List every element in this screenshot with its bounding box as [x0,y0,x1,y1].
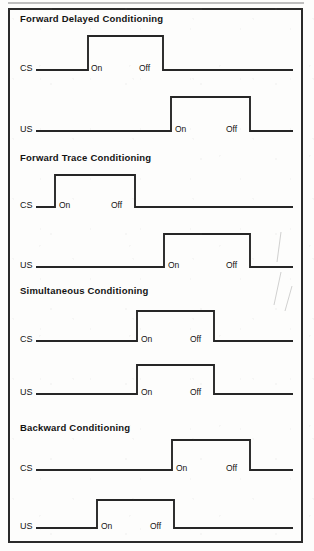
trace-label-us-2: US [20,260,33,270]
on-label-us-2: On [168,260,180,270]
on-label-cs-3: On [141,334,153,344]
scan-artifact-mark-3 [285,286,292,311]
conditioning-timing-diagram: Forward Delayed ConditioningCSOnOffUSOnO… [0,0,314,551]
off-label-us-3: Off [190,387,202,397]
figure-page: Forward Delayed ConditioningCSOnOffUSOnO… [0,0,314,551]
trace-label-us-1: US [20,124,33,134]
waveform-cs-2 [36,175,293,207]
scan-artifact-mark-2 [274,272,281,305]
panel-title-1: Forward Delayed Conditioning [20,13,163,24]
on-label-us-1: On [175,124,187,134]
trace-label-us-3: US [20,387,33,397]
on-label-us-4: On [101,521,113,531]
trace-label-cs-4: CS [20,463,33,473]
off-label-us-2: Off [226,260,238,270]
panel-title-3: Simultaneous Conditioning [20,285,149,296]
off-label-cs-3: Off [190,334,202,344]
trace-label-us-4: US [20,521,33,531]
on-label-cs-1: On [91,63,103,73]
waveform-us-3 [36,365,293,394]
off-label-cs-2: Off [111,200,123,210]
on-label-us-3: On [141,387,153,397]
trace-label-cs-2: CS [20,200,33,210]
panel-title-2: Forward Trace Conditioning [20,152,151,163]
off-label-us-1: Off [226,124,238,134]
waveform-cs-3 [36,311,293,341]
on-label-cs-2: On [59,200,71,210]
scan-artifact-mark-1 [277,232,281,262]
waveform-us-4 [36,500,293,528]
waveform-us-2 [36,234,293,267]
off-label-cs-4: Off [226,463,238,473]
waveform-cs-4 [36,440,293,470]
off-label-us-4: Off [150,521,162,531]
trace-label-cs-1: CS [20,63,33,73]
trace-label-cs-3: CS [20,334,33,344]
off-label-cs-1: Off [139,63,151,73]
on-label-cs-4: On [176,463,188,473]
waveform-us-1 [36,97,293,131]
panel-title-4: Backward Conditioning [20,422,130,433]
waveform-cs-1 [36,36,293,70]
